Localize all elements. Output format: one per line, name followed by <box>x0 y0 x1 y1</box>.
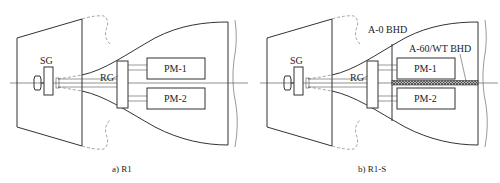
forward-break-line <box>233 20 237 147</box>
a0-bhd-label: A-0 BHD <box>368 24 407 35</box>
break-line-top <box>82 16 110 44</box>
shaft-generator-box <box>294 67 303 95</box>
pm2-label: PM-2 <box>414 93 437 104</box>
rg-label: RG <box>350 72 364 83</box>
a60-wt-bulkhead <box>392 81 478 86</box>
a60-leader-line <box>460 54 466 81</box>
reduction-gear-box <box>367 61 378 108</box>
pm1-label: PM-1 <box>414 63 437 74</box>
sg-label: SG <box>40 55 53 66</box>
break-line-bottom <box>332 120 360 149</box>
sg-label: SG <box>290 55 303 66</box>
shaft-generator-box <box>44 67 53 95</box>
rg-label: RG <box>100 72 114 83</box>
break-line-bottom <box>82 120 110 149</box>
forward-break-line <box>483 20 487 147</box>
caption-a: a) R1 <box>112 164 132 174</box>
propulsion-arrangement-diagram: SG RG PM-1 PM-2 a) R1 <box>0 0 500 183</box>
reduction-gear-box <box>117 61 128 108</box>
panel-b-r1-s: SG RG PM-1 PM-2 A-0 BHD A-60/WT BHD b) R… <box>260 16 498 174</box>
pm1-label: PM-1 <box>164 63 187 74</box>
a60-wt-bhd-label: A-60/WT BHD <box>409 43 471 54</box>
panel-a-r1: SG RG PM-1 PM-2 a) R1 <box>10 16 248 174</box>
caption-b: b) R1-S <box>358 164 386 174</box>
pm2-label: PM-2 <box>164 93 187 104</box>
break-line-top <box>332 16 360 44</box>
